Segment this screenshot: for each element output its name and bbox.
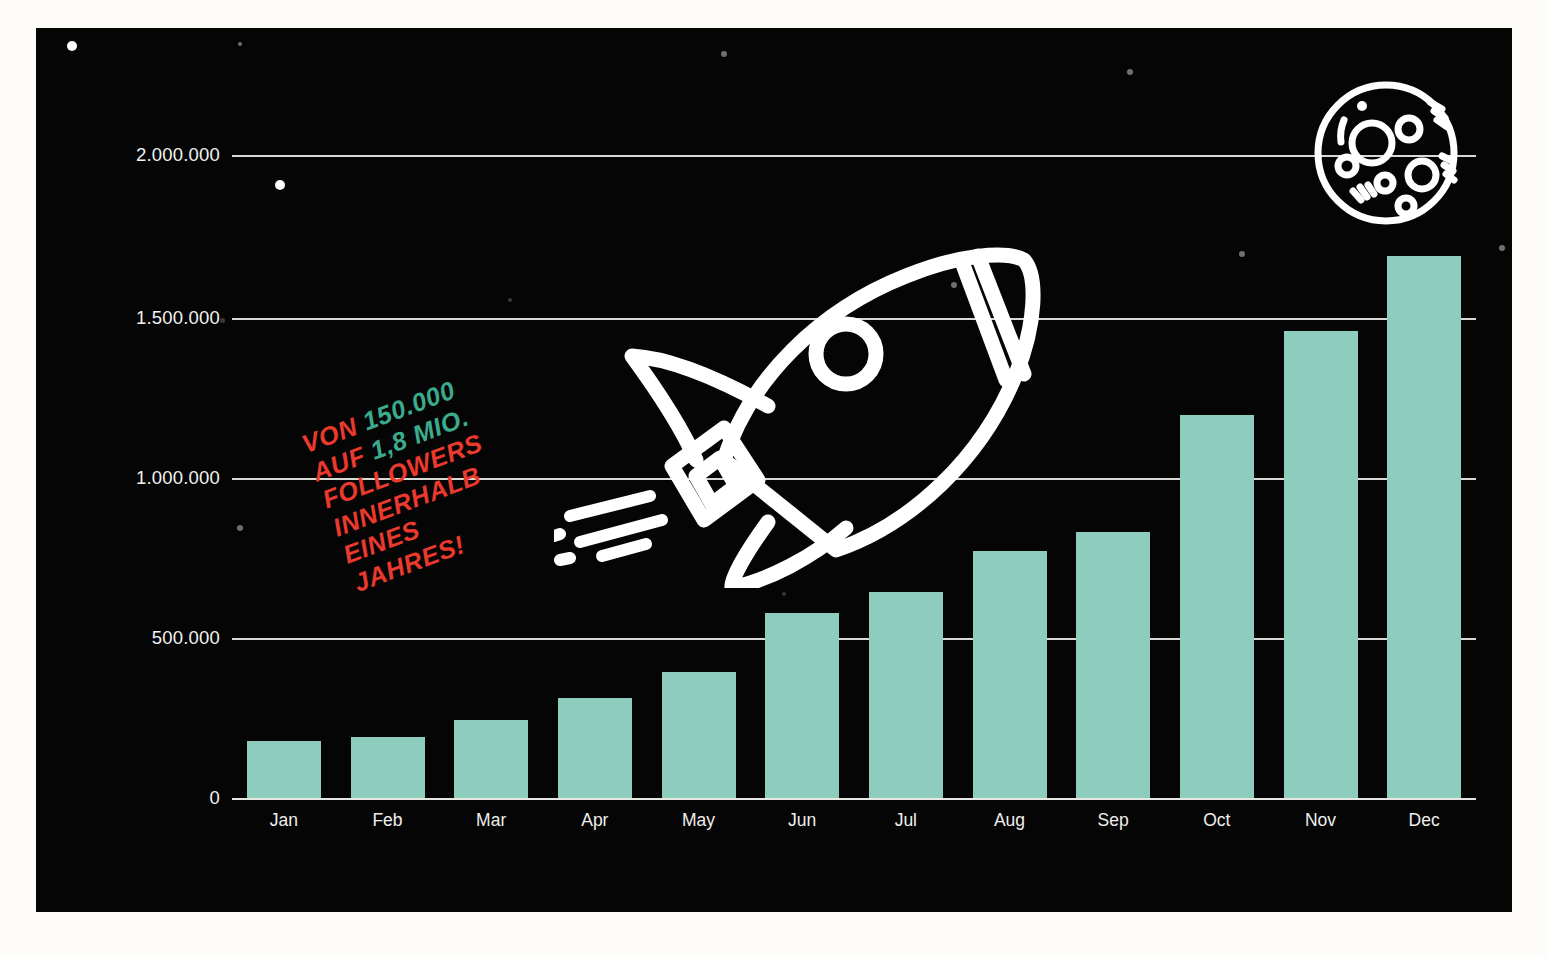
star-dot [238, 42, 242, 46]
bar-oct[interactable] [1180, 415, 1254, 798]
rocket-illustration [554, 228, 1074, 588]
star-dot [1127, 69, 1133, 75]
bar-apr[interactable] [558, 698, 632, 799]
star-dot [67, 41, 77, 51]
bar-feb[interactable] [351, 737, 425, 798]
x-axis-labels: JanFebMarAprMayJunJulAugSepOctNovDec [232, 810, 1476, 850]
xtick-label-apr: Apr [540, 810, 650, 831]
xtick-label-nov: Nov [1266, 810, 1376, 831]
bar-sep[interactable] [1076, 532, 1150, 798]
ytick-label-500000: 500.000 [36, 627, 220, 649]
xtick-label-oct: Oct [1162, 810, 1272, 831]
poster-canvas: 2.000.000 1.500.000 1.000.000 500.000 0 … [0, 0, 1547, 957]
xtick-label-mar: Mar [436, 810, 546, 831]
star-dot [220, 318, 225, 323]
xtick-label-jan: Jan [229, 810, 339, 831]
xtick-label-may: May [644, 810, 754, 831]
chart-panel: 2.000.000 1.500.000 1.000.000 500.000 0 … [36, 28, 1512, 912]
bar-jul[interactable] [869, 592, 943, 798]
ytick-label-1500000: 1.500.000 [36, 307, 220, 329]
ytick-label-1000000: 1.000.000 [36, 467, 220, 489]
xtick-label-jul: Jul [851, 810, 961, 831]
moon-illustration [1306, 73, 1466, 233]
ytick-label-0: 0 [36, 787, 220, 809]
bar-dec[interactable] [1387, 256, 1461, 798]
xtick-label-dec: Dec [1369, 810, 1479, 831]
xtick-label-sep: Sep [1058, 810, 1168, 831]
ytick-label-2000000: 2.000.000 [36, 144, 220, 166]
star-dot [1499, 245, 1505, 251]
bar-may[interactable] [662, 672, 736, 798]
bar-mar[interactable] [454, 720, 528, 798]
bar-nov[interactable] [1284, 331, 1358, 798]
xtick-label-feb: Feb [333, 810, 443, 831]
bar-jun[interactable] [765, 613, 839, 798]
xtick-label-jun: Jun [747, 810, 857, 831]
bar-jan[interactable] [247, 741, 321, 798]
star-dot [721, 51, 727, 57]
gridline-zero [232, 798, 1476, 800]
xtick-label-aug: Aug [955, 810, 1065, 831]
